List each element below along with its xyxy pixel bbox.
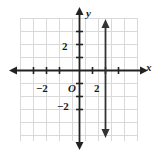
plotted-line-down-arrow (102, 129, 110, 138)
origin-label: O (68, 83, 76, 94)
x-axis-name-label: x (146, 62, 152, 73)
y-axis-name-label: y (86, 8, 91, 19)
y-axis-up-arrow (76, 7, 84, 15)
y-axis (76, 7, 84, 150)
plotted-line-x-equals-2 (102, 19, 110, 138)
graph-canvas (0, 0, 157, 151)
y-tick-label-neg2: −2 (57, 101, 69, 112)
y-tick-label-pos2: 2 (62, 41, 68, 52)
x-axis (9, 67, 148, 75)
x-tick-label-neg2: −2 (36, 83, 48, 94)
plotted-line-up-arrow (102, 19, 110, 28)
y-axis-down-arrow (76, 142, 84, 150)
x-tick-label-pos2: 2 (94, 83, 100, 94)
x-axis-left-arrow (9, 67, 17, 75)
coordinate-plane-figure: −2 2 2 −2 O x y (0, 0, 157, 151)
